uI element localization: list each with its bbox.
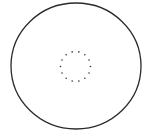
ring-dot (84, 54, 86, 56)
ring-dot (60, 66, 62, 68)
ring-dot (71, 51, 73, 53)
ring-dot (65, 54, 67, 56)
ring-dot (71, 80, 73, 82)
diagram-canvas (0, 0, 151, 136)
ring-dot (84, 77, 86, 79)
ring-dot (61, 72, 63, 74)
ring-dot (88, 72, 90, 74)
ring-dot (90, 66, 92, 68)
inner-dotted-ring (60, 51, 92, 82)
ring-dot (78, 51, 80, 53)
outer-circle (11, 3, 141, 129)
ring-dot (78, 80, 80, 82)
ring-dot (61, 59, 63, 61)
ring-dot (88, 59, 90, 61)
ring-dot (65, 77, 67, 79)
